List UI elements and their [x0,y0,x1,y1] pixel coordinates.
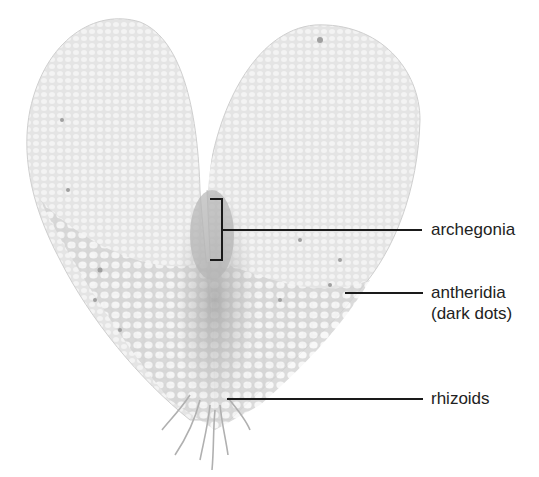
thallus [27,19,420,470]
antheridia-note-label: (dark dots) [431,304,512,324]
archegonia-label: archegonia [431,220,515,240]
antheridia-label: antheridia [431,283,506,303]
prothallus-diagram: archegonia antheridia (dark dots) rhizoi… [0,0,539,477]
rhizoids-label: rhizoids [431,389,490,409]
